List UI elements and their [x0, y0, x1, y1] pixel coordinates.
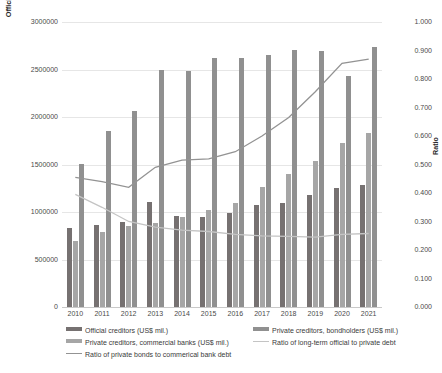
legend-line-marker-icon — [253, 341, 269, 342]
y-axis-right-tick-label: 0.000 — [388, 303, 432, 311]
legend-item[interactable]: Private creditors, bondholders (US$ mil.… — [253, 324, 398, 335]
y-axis-right-tick-label: 1.000 — [388, 18, 432, 26]
x-axis-tick-label: 2021 — [349, 310, 389, 317]
y-axis-right-tick-label: 0.500 — [388, 161, 432, 169]
legend-label: Ratio of private bonds to commerical ban… — [85, 351, 231, 358]
legend-label: Ratio of long-term official to private d… — [272, 339, 396, 346]
y-axis-right-tick-label: 0.100 — [388, 275, 432, 283]
legend-item[interactable]: Ratio of private bonds to commerical ban… — [66, 348, 231, 359]
y-axis-left-tick-label: 3000000 — [0, 18, 58, 26]
legend-swatch-icon — [66, 339, 82, 343]
legend-label: Private creditors, commercial banks (US$… — [85, 339, 229, 346]
y-axis-right-tick-label: 0.800 — [388, 75, 432, 83]
y-axis-left-tick-label: 0 — [0, 303, 58, 311]
line-series — [75, 194, 368, 237]
legend-swatch-icon — [66, 327, 82, 331]
legend-swatch-icon — [253, 327, 269, 331]
line-series-layer — [62, 22, 382, 307]
plot-area — [62, 22, 382, 307]
legend-item[interactable]: Ratio of long-term official to private d… — [253, 336, 396, 347]
chart-legend: Official creditors (US$ mil.)Private cre… — [58, 324, 442, 370]
y-axis-right-tick-label: 0.200 — [388, 246, 432, 254]
legend-item[interactable]: Official creditors (US$ mil.) — [66, 324, 168, 335]
y-axis-right-tick-label: 0.700 — [388, 104, 432, 112]
legend-item[interactable]: Private creditors, commercial banks (US$… — [66, 336, 229, 347]
legend-label: Official creditors (US$ mil.) — [85, 327, 168, 334]
legend-label: Private creditors, bondholders (US$ mil.… — [272, 327, 398, 334]
y-axis-right-tick-label: 0.600 — [388, 132, 432, 140]
y-axis-right-tick-label: 0.900 — [388, 47, 432, 55]
y-axis-right-tick-label: 0.400 — [388, 189, 432, 197]
gridline — [62, 307, 382, 308]
y-axis-left-tick-label: 500000 — [0, 256, 58, 264]
y-axis-title-left: Official and Private Stock of Long-term … — [2, 0, 16, 58]
y-axis-left-tick-label: 1500000 — [0, 161, 58, 169]
line-series — [75, 59, 368, 187]
y-axis-left-tick-label: 2500000 — [0, 66, 58, 74]
y-axis-left-tick-label: 2000000 — [0, 113, 58, 121]
y-axis-right-tick-label: 0.300 — [388, 218, 432, 226]
y-axis-left-tick-label: 1000000 — [0, 208, 58, 216]
legend-line-marker-icon — [66, 353, 82, 354]
chart-container: Official and Private Stock of Long-term … — [0, 0, 442, 373]
